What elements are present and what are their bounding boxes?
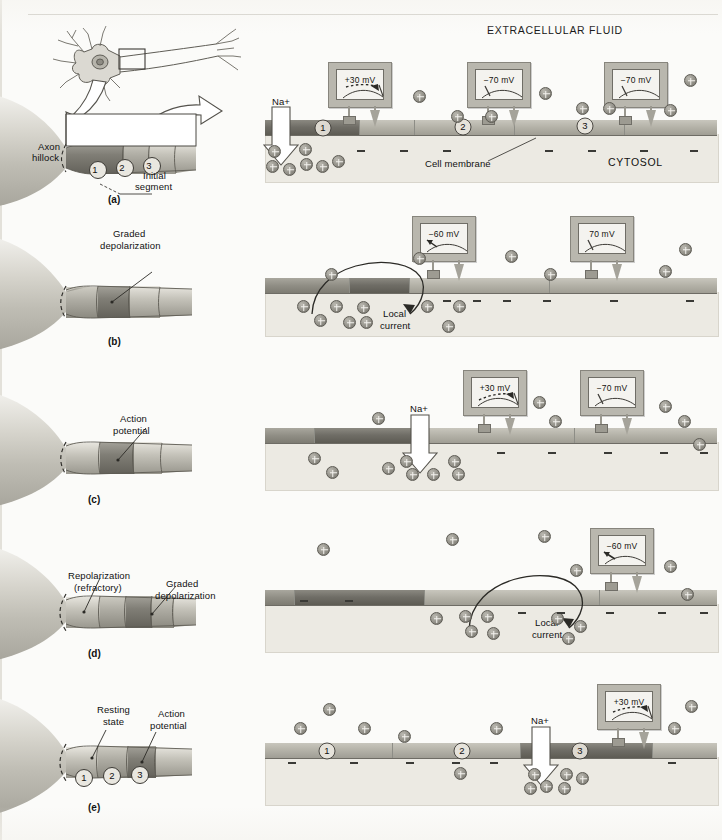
negative-charge xyxy=(288,762,296,764)
membrane-segment-4-row-b xyxy=(550,278,717,294)
membrane-segment-1-row-c xyxy=(265,428,315,444)
panel-e-label-b-line2: potential xyxy=(150,720,187,731)
ion-extracellular xyxy=(538,530,551,543)
ion-cytosolic xyxy=(308,452,321,465)
ion-cytosolic xyxy=(558,782,571,795)
ion-cytosolic xyxy=(300,158,313,171)
axon-hillock-label-line1: Axon xyxy=(38,141,60,152)
ion-cytosolic xyxy=(427,468,440,481)
ion-cytosolic xyxy=(343,316,356,329)
ion-extracellular xyxy=(693,438,706,451)
negative-charge xyxy=(660,452,668,454)
local-current-label-line1-row-b: Local xyxy=(383,308,406,319)
ion-extracellular xyxy=(317,543,330,556)
na-label-row-c: Na+ xyxy=(410,403,428,414)
ion-cytosolic xyxy=(326,466,339,479)
ion-cytosolic xyxy=(297,300,310,313)
negative-charge xyxy=(452,762,460,764)
ion-extracellular xyxy=(570,564,583,577)
membrane-segment-1-row-d xyxy=(265,590,295,606)
voltmeter-3-row-a: −70 mV xyxy=(604,62,668,108)
panel-b-axon-drawing xyxy=(0,240,250,350)
ion-cytosolic xyxy=(481,610,494,623)
negative-charge xyxy=(640,150,648,152)
ion-cytosolic xyxy=(330,300,343,313)
ion-cytosolic xyxy=(560,768,573,781)
ion-cytosolic xyxy=(574,620,587,633)
ion-extracellular xyxy=(678,415,691,428)
negative-charge xyxy=(443,300,451,302)
ion-extracellular xyxy=(549,415,562,428)
panel-b-label-line1: Graded xyxy=(113,228,145,239)
segment-number-2-panel-e: 2 xyxy=(101,770,123,781)
ion-extracellular xyxy=(668,722,681,735)
ion-extracellular xyxy=(490,722,503,735)
ion-cytosolic xyxy=(528,768,541,781)
panel-letter-a: (a) xyxy=(108,194,120,205)
ion-extracellular xyxy=(485,110,498,123)
ion-extracellular xyxy=(659,400,672,413)
panel-e-label-a-line1: Resting xyxy=(97,704,130,715)
ion-extracellular xyxy=(684,74,697,87)
voltmeter-2-face-row-b: 70 mV xyxy=(578,223,626,254)
extracellular-fluid-label: EXTRACELLULAR FLUID xyxy=(487,25,623,36)
voltmeter-1-face-row-a: +30 mV xyxy=(336,69,384,100)
ion-extracellular xyxy=(539,87,552,100)
ion-extracellular xyxy=(325,268,338,281)
ion-cytosolic xyxy=(360,316,373,329)
ion-extracellular xyxy=(679,243,692,256)
electrode-2-row-c xyxy=(595,424,608,433)
ion-extracellular xyxy=(533,396,546,409)
negative-charge xyxy=(400,150,408,152)
ion-cytosolic xyxy=(540,780,553,793)
ion-extracellular xyxy=(576,102,589,115)
local-current-label-line2-row-b: current xyxy=(380,320,410,331)
negative-charge xyxy=(668,762,676,764)
negative-charge xyxy=(490,762,498,764)
probe-1-row-e xyxy=(639,732,649,749)
ion-extracellular xyxy=(603,102,616,115)
ion-cytosolic xyxy=(314,314,327,327)
na-label-row-a: Na+ xyxy=(272,96,290,107)
negative-charge xyxy=(686,300,694,302)
panel-b-label-line2: depolarization xyxy=(100,240,161,251)
membrane-strip-row-c xyxy=(265,428,717,444)
ion-cytosolic xyxy=(452,468,465,481)
negative-charge xyxy=(606,612,614,614)
ion-extracellular xyxy=(681,588,694,601)
panel-c-label-line2: potential xyxy=(113,425,150,436)
voltmeter-2-row-a: −70 mV xyxy=(467,62,531,108)
negative-charge xyxy=(557,612,565,614)
panel-e-axon-drawing xyxy=(0,700,250,816)
ion-extracellular xyxy=(358,722,371,735)
panel-e-label-b-line1: Action xyxy=(158,708,185,719)
panel-d-label-a-line2: (refractory) xyxy=(74,582,122,593)
strip-number-1-row-e: 1 xyxy=(317,745,337,756)
electrode-1-row-e xyxy=(612,738,625,747)
negative-charge xyxy=(690,150,698,152)
ion-cytosolic xyxy=(465,625,478,638)
negative-charge xyxy=(588,150,596,152)
voltmeter-3-face-row-a: −70 mV xyxy=(612,69,660,100)
initial-segment-label-line2: segment xyxy=(135,181,172,192)
negative-charge xyxy=(604,452,612,454)
panel-d-label-b-line1: Graded xyxy=(166,578,198,589)
ion-cytosolic xyxy=(406,468,419,481)
segment-number-1-panel-e: 1 xyxy=(73,772,95,783)
voltmeter-2-face-row-a: −70 mV xyxy=(475,69,523,100)
ion-cytosolic xyxy=(551,612,564,625)
ion-extracellular xyxy=(398,730,411,743)
ion-extracellular xyxy=(664,104,677,117)
ion-cytosolic xyxy=(382,462,395,475)
ion-extracellular xyxy=(413,252,426,265)
strip-number-3-row-a: 3 xyxy=(575,120,595,131)
ion-extracellular xyxy=(685,700,698,713)
voltmeter-1-face-row-c: +30 mV xyxy=(471,377,519,408)
negative-charge xyxy=(357,150,365,152)
ion-cytosolic xyxy=(442,320,455,333)
probe-3-row-a xyxy=(646,110,656,127)
ion-extracellular xyxy=(659,265,672,278)
ion-extracellular xyxy=(413,90,426,103)
voltmeter-1-row-e: +30 mV xyxy=(597,684,661,730)
segment-number-2-panel-a: 2 xyxy=(111,162,133,173)
